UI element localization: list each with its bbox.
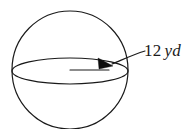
- radius-unit-text: yd: [164, 41, 180, 60]
- label-leader-line: [112, 51, 145, 64]
- sphere-diagram-svg: [0, 0, 192, 129]
- radius-measurement-label: 12yd: [144, 41, 181, 61]
- radius-value-text: 12: [144, 41, 161, 60]
- radius-arrowhead-icon: [98, 58, 113, 69]
- sphere-diagram-canvas: 12yd: [0, 0, 192, 129]
- sphere-equator-ellipse: [12, 58, 128, 84]
